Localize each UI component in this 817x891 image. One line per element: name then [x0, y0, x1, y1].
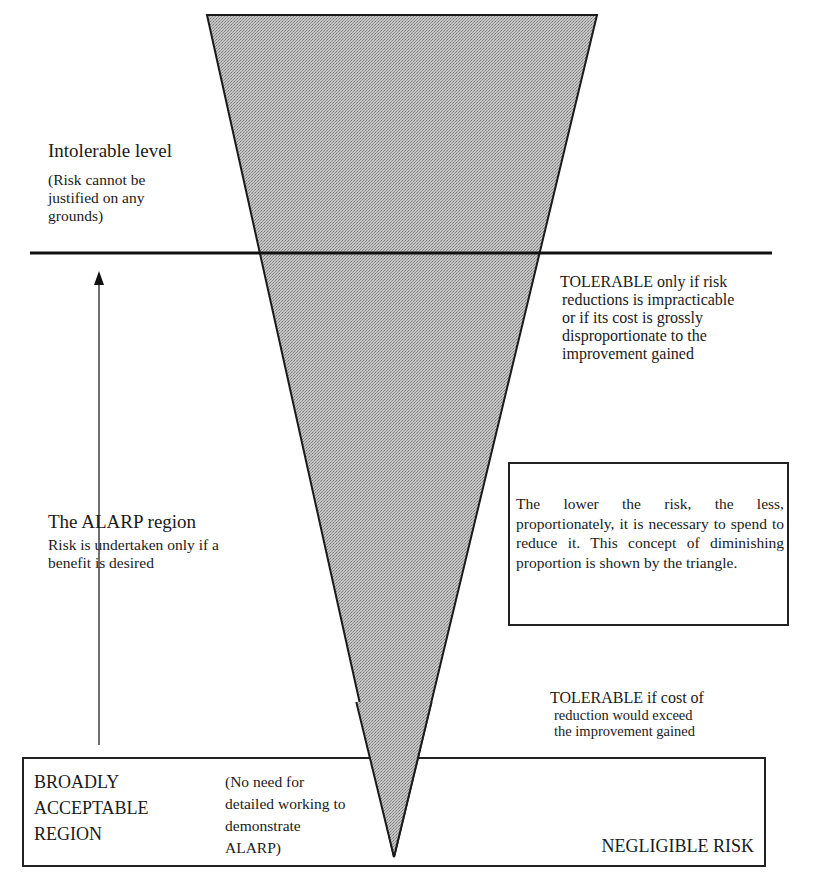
alarp-desc-line1: Risk is undertaken only if a — [48, 536, 219, 554]
intolerable-desc-line1: (Risk cannot be — [48, 171, 172, 189]
tolerable-upper-line5: improvement gained — [560, 345, 800, 363]
negligible-risk-label: NEGLIGIBLE RISK — [602, 833, 754, 859]
tolerable-upper-line3: or if its cost is grossly — [560, 309, 800, 327]
broadly-acceptable-line2: ACCEPTABLE — [34, 795, 149, 821]
alarp-title: The ALARP region — [48, 511, 219, 533]
tolerable-lower-line2: reduction would exceed — [550, 707, 770, 723]
tolerable-upper-line2: reductions is impracticable — [560, 291, 800, 309]
tolerable-lower-text: TOLERABLE if cost of reduction would exc… — [550, 689, 770, 739]
note-line2: detailed working to — [225, 793, 346, 815]
broadly-acceptable-line3: REGION — [34, 821, 149, 847]
diminishing-proportion-text: The lower the risk, the less, proportion… — [516, 494, 784, 572]
intolerable-label-group: Intolerable level (Risk cannot be justif… — [48, 140, 172, 225]
tolerable-upper-line1: TOLERABLE only if risk — [560, 273, 800, 291]
note-line1: (No need for — [225, 771, 346, 793]
broadly-acceptable-box: BROADLY ACCEPTABLE REGION (No need for d… — [22, 757, 766, 867]
note-line4: ALARP) — [225, 837, 346, 859]
note-line3: demonstrate — [225, 815, 346, 837]
alarp-desc-line2: benefit is desired — [48, 554, 219, 572]
intolerable-desc-line3: grounds) — [48, 207, 172, 225]
alarp-label-group: The ALARP region Risk is undertaken only… — [48, 511, 219, 572]
intolerable-title: Intolerable level — [48, 140, 172, 162]
no-detailed-working-note: (No need for detailed working to demonst… — [225, 771, 346, 859]
tolerable-lower-line1: TOLERABLE if cost of — [550, 689, 770, 707]
diminishing-proportion-box: The lower the risk, the less, proportion… — [508, 462, 789, 626]
alarp-triangle — [207, 15, 597, 857]
broadly-acceptable-label: BROADLY ACCEPTABLE REGION — [34, 769, 149, 847]
arrow-up-icon — [94, 271, 104, 285]
tolerable-upper-line4: disproportionate to the — [560, 327, 800, 345]
intolerable-desc-line2: justified on any — [48, 189, 172, 207]
broadly-acceptable-line1: BROADLY — [34, 769, 149, 795]
tolerable-lower-line3: the improvement gained — [550, 723, 770, 739]
tolerable-upper-text: TOLERABLE only if risk reductions is imp… — [560, 273, 800, 363]
